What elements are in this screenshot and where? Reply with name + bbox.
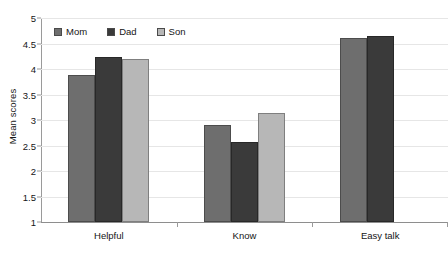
x-axis-category-label: Know	[233, 230, 257, 241]
bar	[68, 75, 95, 222]
y-axis-tick-label: 3	[31, 115, 36, 126]
legend-label: Mom	[66, 26, 87, 37]
y-axis-tick-label: 2	[31, 166, 36, 177]
legend-swatch-icon	[107, 28, 115, 36]
bar	[204, 125, 231, 222]
legend-swatch-icon	[157, 28, 165, 36]
bar-chart: Mean scores 54.543.532.521.51 MomDadSon …	[0, 0, 448, 258]
bar	[95, 57, 122, 222]
bar	[258, 113, 285, 222]
bar	[231, 142, 258, 222]
gridline	[41, 18, 448, 19]
y-axis-tick-label: 4.5	[23, 38, 36, 49]
legend-item: Son	[157, 26, 186, 37]
y-axis-tick-label: 1.5	[23, 191, 36, 202]
y-axis-ticks: 54.543.532.521.51	[0, 0, 41, 258]
legend-swatch-icon	[54, 28, 62, 36]
bar	[367, 36, 394, 222]
x-axis-group-separator	[177, 222, 178, 227]
x-axis-group-separator	[312, 222, 313, 227]
y-axis-tick-label: 5	[31, 13, 36, 24]
bar	[122, 59, 149, 222]
legend-label: Son	[169, 26, 186, 37]
plot-area	[41, 18, 448, 222]
y-axis-tick-label: 3.5	[23, 89, 36, 100]
chart-legend: MomDadSon	[54, 26, 185, 37]
x-axis-line	[41, 222, 448, 223]
bar	[340, 38, 367, 222]
x-axis-category-label: Helpful	[94, 230, 124, 241]
legend-label: Dad	[119, 26, 136, 37]
x-axis-category-label: Easy talk	[361, 230, 400, 241]
y-axis-tick-label: 4	[31, 64, 36, 75]
legend-item: Mom	[54, 26, 87, 37]
legend-item: Dad	[107, 26, 136, 37]
y-axis-tick-label: 2.5	[23, 140, 36, 151]
y-axis-tick-label: 1	[31, 217, 36, 228]
